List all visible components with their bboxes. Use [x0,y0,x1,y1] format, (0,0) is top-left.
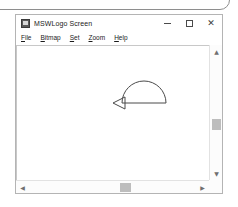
logo-drawing-canvas[interactable] [16,45,209,180]
close-button[interactable]: ✕ [200,15,222,32]
mswlogo-screen-window: MSWLogo Screen ✕ File Bitmap Set Zoom He… [15,14,223,194]
menu-item-file-rest: ile [25,34,32,41]
scrollbar-corner [209,180,222,193]
scroll-up-arrow-icon[interactable]: ▲ [210,46,223,57]
minimize-icon [164,23,171,24]
window-controls: ✕ [156,15,222,32]
menu-item-set[interactable]: Set [70,35,80,42]
menu-bar: File Bitmap Set Zoom Help [16,32,222,45]
canvas-row: ▲ ▼ [16,45,222,180]
minimize-button[interactable] [156,15,178,32]
maximize-button[interactable] [178,15,200,32]
scroll-left-arrow-icon[interactable]: ◀ [17,182,28,193]
title-bar[interactable]: MSWLogo Screen ✕ [16,15,222,32]
menu-item-bitmap-rest: itmap [45,34,61,41]
menu-item-set-rest: et [74,34,79,41]
scroll-down-arrow-icon[interactable]: ▼ [210,168,223,179]
client-area: ▲ ▼ ◀ ▶ [16,45,222,193]
scroll-right-arrow-icon[interactable]: ▶ [197,182,208,193]
menu-item-zoom-rest: oom [93,34,106,41]
menu-item-help-rest: elp [119,34,128,41]
menu-item-zoom[interactable]: Zoom [89,35,106,42]
maximize-icon [186,20,193,27]
menu-item-bitmap[interactable]: Bitmap [41,35,61,42]
menu-item-file[interactable]: File [21,35,32,42]
vertical-scrollbar-thumb[interactable] [212,119,221,130]
mswlogo-app-icon [21,19,30,28]
semicircle-arc [122,81,166,103]
window-title: MSWLogo Screen [34,20,92,27]
vertical-scrollbar[interactable]: ▲ ▼ [209,45,222,180]
horizontal-scrollbar[interactable]: ◀ ▶ [16,180,209,193]
close-icon: ✕ [207,19,215,28]
horizontal-scrollbar-thumb[interactable] [120,183,131,192]
background-window-edge [0,0,230,10]
menu-item-help[interactable]: Help [114,35,127,42]
turtle-graphics-drawing [17,46,209,180]
